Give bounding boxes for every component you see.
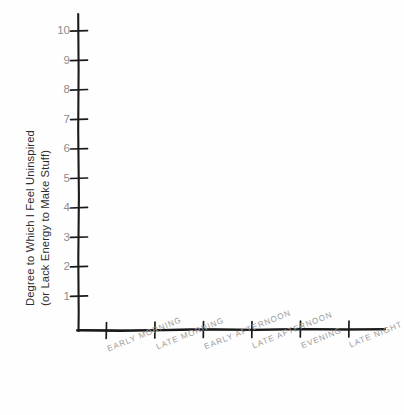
y-tick-label-6: 6: [30, 143, 70, 154]
y-tick-2: [71, 266, 88, 267]
y-tick-label-3: 3: [30, 232, 70, 243]
y-tick-7: [71, 119, 88, 120]
y-tick-label-4: 4: [30, 202, 70, 213]
y-tick-label-2: 2: [30, 261, 70, 272]
y-tick-label-10: 10: [30, 25, 70, 36]
y-tick-9: [71, 60, 88, 61]
y-axis-line: [78, 14, 79, 331]
y-tick-label-1: 1: [30, 291, 70, 302]
y-tick-label-7: 7: [30, 114, 70, 125]
chart-canvas: Degree to Which I Feel Uninspired (or La…: [0, 0, 404, 415]
y-tick-1: [71, 296, 88, 297]
y-tick-5: [71, 178, 88, 179]
y-tick-8: [71, 90, 88, 91]
y-tick-label-5: 5: [30, 173, 70, 184]
y-tick-10: [71, 31, 88, 32]
y-tick-4: [71, 207, 88, 208]
y-tick-label-8: 8: [30, 84, 70, 95]
y-tick-label-9: 9: [30, 55, 70, 66]
